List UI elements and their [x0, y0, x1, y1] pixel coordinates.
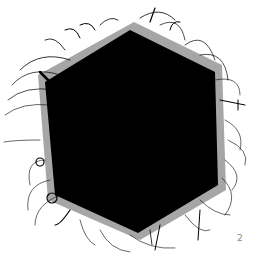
hairy-hexagon-artwork: [0, 0, 268, 261]
page-number: 2: [237, 234, 243, 243]
